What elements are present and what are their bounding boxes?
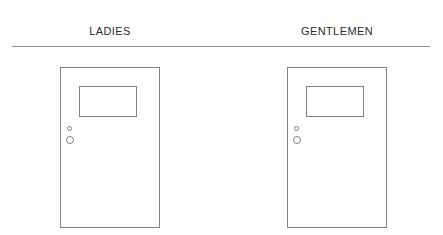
door-peephole-icon	[294, 126, 299, 131]
door-window-icon	[306, 86, 364, 117]
door-peephole-icon	[67, 126, 72, 131]
diagram-canvas: LADIES GENTLEMEN	[0, 0, 443, 235]
heading-gentlemen: GENTLEMEN	[287, 25, 387, 37]
door-lock-icon	[293, 136, 301, 144]
door-window-icon	[79, 86, 137, 117]
door-lock-icon	[66, 136, 74, 144]
door-ladies	[60, 67, 160, 228]
door-gentlemen	[287, 67, 387, 228]
horizontal-divider	[12, 46, 430, 47]
heading-ladies: LADIES	[60, 25, 160, 37]
